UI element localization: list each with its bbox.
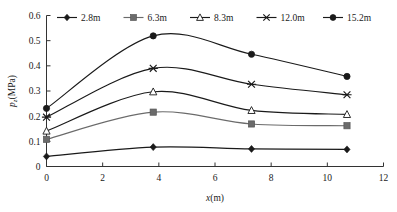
diamond-marker	[344, 146, 350, 153]
data-point-marker	[64, 14, 70, 21]
series-2-8m	[43, 144, 350, 160]
diamond-marker	[248, 145, 254, 152]
data-point-marker	[344, 73, 350, 79]
x-tick-label: 4	[156, 173, 161, 183]
data-point-marker	[262, 14, 271, 20]
data-point-marker	[43, 153, 49, 160]
data-point-marker	[330, 15, 336, 21]
chart-container: 00.10.20.30.40.50.6024681012x(m)pz(MPa)2…	[0, 0, 397, 212]
x-tick-label: 8	[269, 173, 274, 183]
data-point-marker	[248, 121, 254, 127]
data-point-marker	[43, 136, 49, 142]
series-line	[47, 147, 347, 157]
data-point-marker	[43, 105, 49, 111]
y-tick-label: 0	[36, 162, 41, 172]
data-point-marker	[131, 15, 137, 21]
legend-label: 12.0m	[281, 13, 306, 23]
x-marker	[149, 65, 158, 72]
x-tick-label: 6	[213, 173, 218, 183]
x-tick-label: 12	[379, 173, 389, 183]
diamond-marker	[64, 14, 70, 21]
data-point-marker	[150, 109, 156, 115]
data-point-marker	[247, 81, 256, 88]
legend-label: 15.2m	[347, 13, 372, 23]
data-point-marker	[344, 146, 350, 153]
series-6-3m	[43, 109, 350, 142]
series-15-2m	[43, 33, 350, 112]
y-tick-label: 0.6	[29, 11, 41, 21]
y-tick-label: 0.5	[29, 36, 41, 46]
circle-marker	[344, 73, 350, 79]
circle-marker	[43, 105, 49, 111]
x-axis-title: x(m)	[205, 193, 224, 204]
y-axis-title-group: pz(MPa)	[7, 75, 19, 108]
data-point-marker	[43, 127, 50, 134]
x-tick-label: 10	[323, 173, 333, 183]
square-marker	[248, 121, 254, 127]
square-marker	[131, 15, 137, 21]
legend: 2.8m6.3m8.3m12.0m15.2m	[57, 13, 372, 23]
data-point-marker	[248, 51, 254, 57]
circle-marker	[248, 51, 254, 57]
series-group	[42, 33, 352, 160]
legend-label: 8.3m	[214, 13, 234, 23]
data-point-marker	[149, 65, 158, 72]
x-tick-label: 0	[44, 173, 49, 183]
circle-marker	[150, 33, 156, 39]
y-tick-label: 0.3	[29, 86, 41, 96]
y-tick-label: 0.1	[29, 137, 41, 147]
data-point-marker	[248, 145, 254, 152]
legend-item-6-3m[interactable]: 6.3m	[124, 13, 168, 23]
y-tick-label: 0.2	[29, 112, 41, 122]
square-marker	[43, 136, 49, 142]
circle-marker	[330, 15, 336, 21]
diamond-marker	[43, 153, 49, 160]
data-point-marker	[344, 123, 350, 129]
legend-item-12-0m[interactable]: 12.0m	[257, 13, 306, 23]
x-marker	[247, 81, 256, 88]
x-tick-label: 2	[100, 173, 105, 183]
line-chart: 00.10.20.30.40.50.6024681012x(m)pz(MPa)2…	[0, 0, 397, 212]
y-axis-title: pz(MPa)	[7, 75, 19, 108]
triangle-marker	[43, 127, 50, 134]
series-line	[47, 67, 347, 117]
legend-label: 6.3m	[148, 13, 168, 23]
y-tick-label: 0.4	[29, 61, 41, 71]
data-point-marker	[342, 91, 351, 98]
data-point-marker	[150, 144, 156, 151]
legend-item-8-3m[interactable]: 8.3m	[190, 13, 234, 23]
x-marker	[342, 91, 351, 98]
legend-label: 2.8m	[81, 13, 101, 23]
square-marker	[344, 123, 350, 129]
data-point-marker	[150, 33, 156, 39]
square-marker	[150, 109, 156, 115]
diamond-marker	[150, 144, 156, 151]
legend-item-15-2m[interactable]: 15.2m	[323, 13, 372, 23]
x-marker	[262, 14, 271, 20]
legend-item-2-8m[interactable]: 2.8m	[57, 13, 101, 23]
series-line	[47, 112, 347, 140]
